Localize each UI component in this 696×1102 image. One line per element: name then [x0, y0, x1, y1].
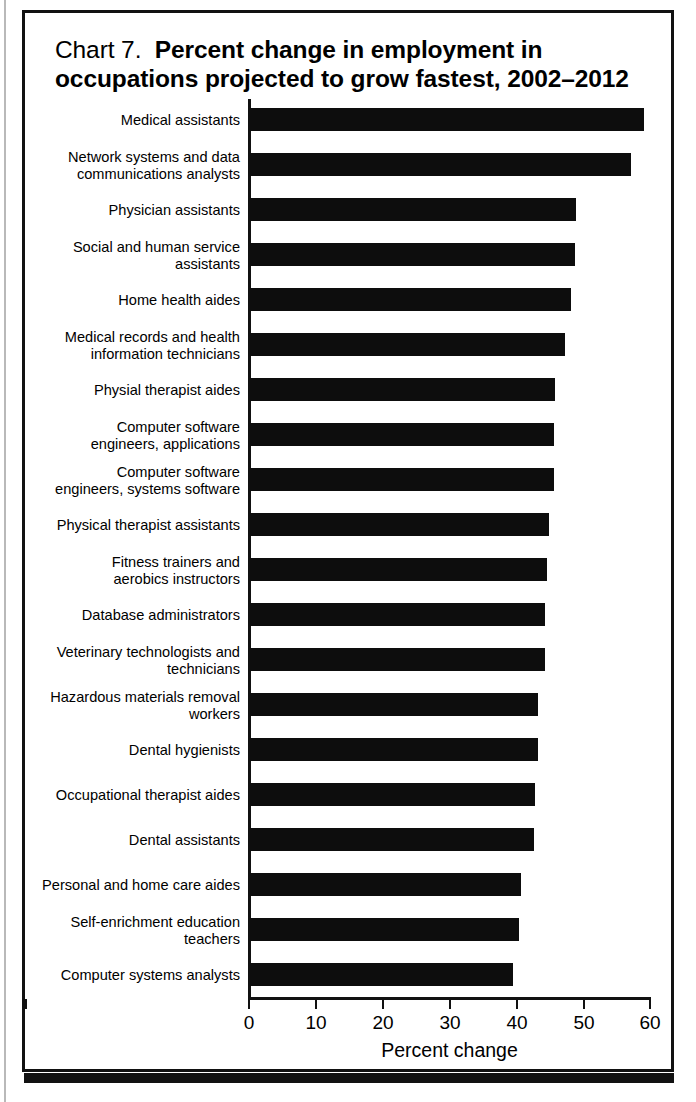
- bar-category-label: Occupational therapist aides: [20, 787, 240, 804]
- bar: [250, 693, 538, 716]
- bar: [250, 243, 575, 266]
- chart-frame: Chart 7. Percent change in employment in…: [22, 10, 674, 1072]
- bar-category-label: Physial therapist aides: [20, 382, 240, 399]
- bar-row: Network systems and data communications …: [25, 153, 677, 176]
- bar-category-label: Hazardous materials removal workers: [20, 689, 240, 722]
- bar: [250, 513, 549, 536]
- bar-category-label: Dental hygienists: [20, 742, 240, 759]
- bar-category-label: Personal and home care aides: [20, 877, 240, 894]
- x-ticklabel-40: 40: [497, 1012, 537, 1034]
- bar-row: Medical records and health information t…: [25, 333, 677, 356]
- bar-category-label: Medical assistants: [20, 112, 240, 129]
- x-ticklabel-50: 50: [564, 1012, 604, 1034]
- x-tick-30: [449, 999, 451, 1009]
- bar-category-label: Computer software engineers, application…: [20, 419, 240, 452]
- x-tick-50: [583, 999, 585, 1009]
- x-tick-40: [516, 999, 518, 1009]
- bar-category-label: Computer software engineers, systems sof…: [20, 464, 240, 497]
- bar-row: Medical assistants: [25, 108, 677, 131]
- page-edge-rule: [4, 0, 6, 1102]
- bar: [250, 828, 534, 851]
- bar-row: Database administrators: [25, 603, 677, 626]
- bar-row: Dental hygienists: [25, 738, 677, 761]
- bar-row: Hazardous materials removal workers: [25, 693, 677, 716]
- bar-category-label: Network systems and data communications …: [20, 149, 240, 182]
- x-tick-20b: [382, 999, 384, 1009]
- x-ticklabel-0: 0: [229, 1012, 269, 1034]
- bar: [250, 738, 538, 761]
- bar-row: Personal and home care aides: [25, 873, 677, 896]
- bar: [250, 423, 554, 446]
- bar-category-label: Home health aides: [20, 292, 240, 309]
- bar: [250, 558, 547, 581]
- bar-row: Physician assistants: [25, 198, 677, 221]
- bar-category-label: Computer systems analysts: [20, 967, 240, 984]
- bar: [250, 603, 545, 626]
- x-tick-60: [649, 999, 651, 1009]
- bar-category-label: Social and human service assistants: [20, 239, 240, 272]
- bar-row: Social and human service assistants: [25, 243, 677, 266]
- bar-row: Physical therapist assistants: [25, 513, 677, 536]
- bar-category-label: Self-enrichment education teachers: [20, 914, 240, 947]
- bar-row: Fitness trainers and aerobics instructor…: [25, 558, 677, 581]
- bar: [250, 288, 571, 311]
- bar-row: Physial therapist aides: [25, 378, 677, 401]
- x-tick-20: [25, 999, 27, 1009]
- chart-page: Chart 7. Percent change in employment in…: [0, 0, 696, 1102]
- x-tick-10: [315, 999, 317, 1009]
- x-ticklabel-60: 60: [630, 1012, 670, 1034]
- bar: [250, 963, 513, 986]
- bar: [250, 153, 631, 176]
- x-axis-title: Percent change: [248, 1039, 651, 1062]
- x-ticklabel-20: 20: [363, 1012, 403, 1034]
- bar: [250, 108, 644, 131]
- bar-row: Computer software engineers, systems sof…: [25, 468, 677, 491]
- plot-area: 0 10 20 30 40 50 60 Percent change Medic…: [25, 13, 677, 1069]
- bar: [250, 468, 554, 491]
- y-axis-line: [248, 99, 251, 999]
- bar-category-label: Dental assistants: [20, 832, 240, 849]
- bar-category-label: Database administrators: [20, 607, 240, 624]
- bar: [250, 783, 535, 806]
- x-ticklabel-30: 30: [430, 1012, 470, 1034]
- bar-category-label: Physical therapist assistants: [20, 517, 240, 534]
- bar-category-label: Fitness trainers and aerobics instructor…: [20, 554, 240, 587]
- bar: [250, 198, 576, 221]
- bar-category-label: Physician assistants: [20, 202, 240, 219]
- bar: [250, 648, 545, 671]
- bar-row: Home health aides: [25, 288, 677, 311]
- bar-row: Computer systems analysts: [25, 963, 677, 986]
- x-tick-0: [248, 999, 250, 1009]
- x-ticklabel-10: 10: [296, 1012, 336, 1034]
- bar: [250, 378, 555, 401]
- bar-row: Occupational therapist aides: [25, 783, 677, 806]
- bottom-rule: [24, 1073, 674, 1083]
- bar-category-label: Medical records and health information t…: [20, 329, 240, 362]
- bar-row: Veterinary technologists and technicians: [25, 648, 677, 671]
- bar-row: Computer software engineers, application…: [25, 423, 677, 446]
- bar: [250, 918, 519, 941]
- bar-category-label: Veterinary technologists and technicians: [20, 644, 240, 677]
- bar: [250, 333, 565, 356]
- bar-row: Self-enrichment education teachers: [25, 918, 677, 941]
- bar: [250, 873, 521, 896]
- bar-row: Dental assistants: [25, 828, 677, 851]
